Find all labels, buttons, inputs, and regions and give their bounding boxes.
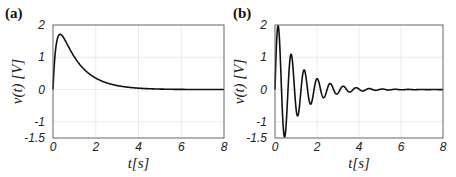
y-tick-label: -1	[256, 115, 267, 129]
panel-b: (b) 02468-1.5-1012t[s]v(t) [V]	[228, 0, 456, 177]
y-tick-label: 1	[38, 50, 45, 64]
x-axis-label: t[s]	[128, 155, 150, 171]
y-tick-label: 0	[260, 83, 267, 97]
panel-a: (a) 02468-1.5-1012t[s]v(t) [V]	[0, 0, 228, 177]
y-tick-label: 0	[38, 83, 45, 97]
x-axis-label: t[s]	[348, 155, 370, 171]
x-tick-label: 0	[272, 140, 279, 154]
x-tick-label: 4	[135, 140, 142, 154]
y-tick-label: -1.5	[246, 131, 267, 145]
x-tick-label: 6	[398, 140, 405, 154]
y-tick-label: -1.5	[24, 131, 45, 145]
x-tick-label: 0	[50, 140, 57, 154]
y-tick-label: -1	[34, 115, 45, 129]
y-tick-label: 2	[259, 18, 267, 32]
x-tick-label: 2	[313, 140, 321, 154]
y-axis-label: v(t) [V]	[9, 59, 26, 105]
x-tick-label: 8	[440, 140, 447, 154]
y-tick-label: 2	[37, 18, 45, 32]
x-tick-label: 2	[91, 140, 99, 154]
y-axis-label: v(t) [V]	[231, 59, 248, 105]
chart-a: 02468-1.5-1012t[s]v(t) [V]	[0, 0, 228, 177]
chart-b: 02468-1.5-1012t[s]v(t) [V]	[228, 0, 456, 177]
x-tick-label: 6	[178, 140, 185, 154]
y-tick-label: 1	[260, 50, 267, 64]
x-tick-label: 8	[221, 140, 228, 154]
x-tick-label: 4	[356, 140, 363, 154]
